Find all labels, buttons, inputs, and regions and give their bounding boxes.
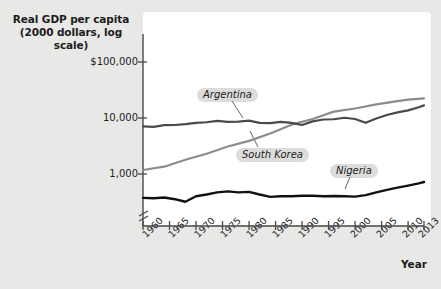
callout-leader-lines bbox=[232, 101, 350, 189]
series-line-argentina bbox=[143, 105, 424, 126]
series-line-nigeria bbox=[143, 182, 424, 202]
series-line-south-korea bbox=[143, 98, 424, 170]
